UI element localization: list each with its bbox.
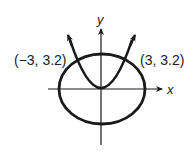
intersection-label-left: (−3, 3.2) [14,52,67,68]
y-axis-label: y [96,12,105,27]
x-axis-label: x [166,82,174,97]
intersection-label-right: (3, 3.2) [140,52,184,68]
graph-figure: x y (−3, 3.2) (3, 3.2) [0,0,192,155]
